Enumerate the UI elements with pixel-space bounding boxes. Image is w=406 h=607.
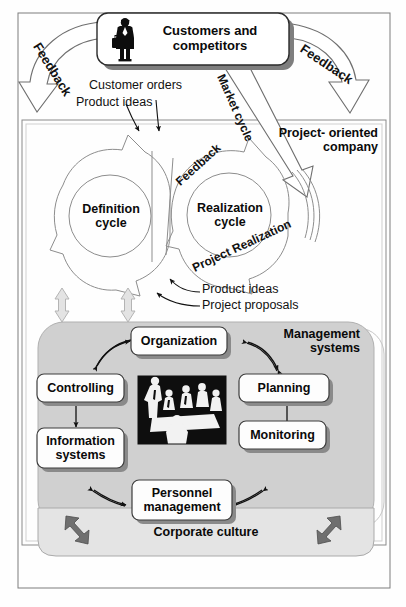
company-label: Project- oriented company — [258, 126, 378, 154]
double-arrow-left — [55, 288, 69, 322]
customer-orders-label: Customer orders — [89, 79, 182, 93]
label-controlling: Controlling — [37, 374, 124, 402]
project-proposals-leader — [157, 293, 200, 306]
meeting-people-photo — [138, 376, 226, 444]
corporate-culture-label: Corporate culture — [96, 512, 316, 552]
label-planning: Planning — [239, 374, 329, 402]
label-monitoring: Monitoring — [239, 421, 326, 449]
product-ideas-label-mid: Product ideas — [202, 283, 278, 297]
definition-cycle-label: Definition cycle — [72, 196, 150, 236]
project-proposals-label: Project proposals — [202, 299, 299, 313]
label-information-systems: Information systems — [37, 428, 124, 468]
product-ideas-leader-mid — [170, 279, 200, 292]
label-organization: Organization — [131, 327, 227, 355]
customer-orders-leader — [156, 100, 159, 131]
diagram-canvas: Customers and competitors Feedback Feedb… — [0, 0, 406, 607]
product-ideas-label-top: Product ideas — [76, 96, 152, 110]
cycle-to-management-arrows — [55, 288, 135, 322]
management-systems-title: Management systems — [240, 327, 360, 355]
customers-box-label: Customers and competitors — [137, 13, 283, 65]
double-arrow-right — [121, 288, 135, 322]
